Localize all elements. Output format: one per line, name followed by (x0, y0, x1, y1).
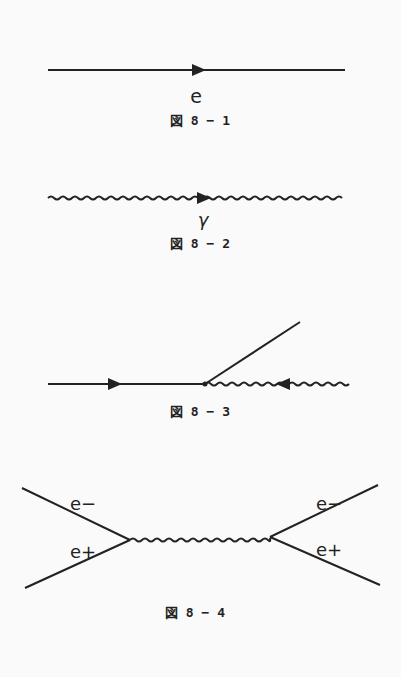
figure-caption: 図 8 − 1 (170, 113, 230, 128)
figure-caption: 図 8 − 4 (165, 605, 225, 620)
figure-8-3: 図 8 − 3 (48, 322, 349, 419)
arrow-left-icon (276, 378, 290, 390)
label-left-bottom: e+ (70, 541, 96, 562)
figure-8-4: e− e+ e− e+ 図 8 − 4 (22, 485, 380, 620)
arrow-right-icon (108, 378, 122, 390)
figure-caption: 図 8 − 2 (170, 236, 230, 251)
arrow-right-icon (197, 192, 211, 204)
photon-label: γ (198, 209, 210, 230)
figure-caption: 図 8 − 3 (170, 404, 230, 419)
arrow-right-icon (192, 64, 206, 76)
label-right-bottom: e+ (316, 539, 342, 560)
outgoing-electron-line (205, 322, 300, 384)
photon-wavy-line (48, 197, 342, 200)
label-right-top: e− (316, 493, 342, 514)
vertex-dot (203, 382, 208, 387)
diagram-canvas: e 図 8 − 1 γ 図 8 − 2 図 8 − 3 e− e+ e− e+ … (0, 0, 401, 677)
virtual-photon-wavy-line (130, 538, 270, 542)
electron-label: e (190, 85, 202, 107)
figure-8-1: e 図 8 − 1 (48, 64, 345, 128)
label-left-top: e− (70, 493, 96, 514)
figure-8-2: γ 図 8 − 2 (48, 192, 342, 251)
